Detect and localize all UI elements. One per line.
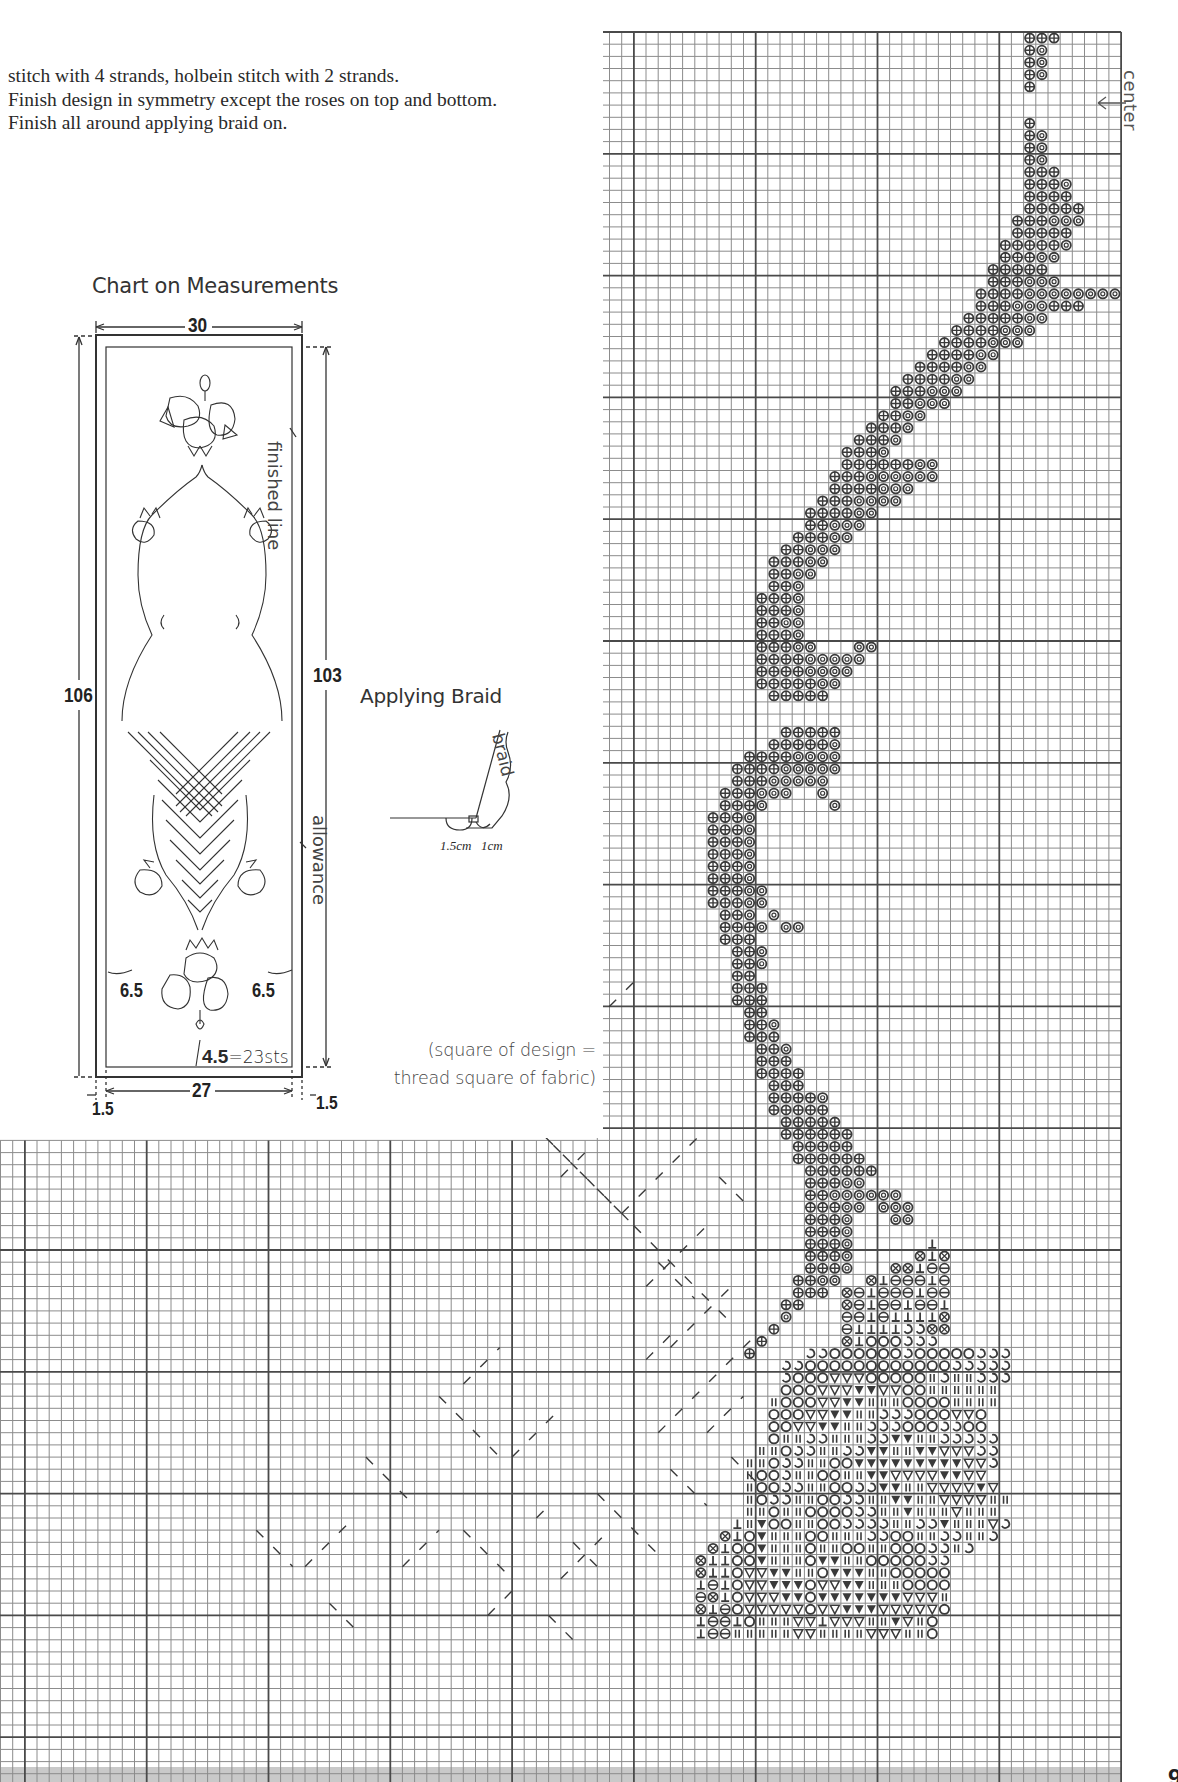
dim-margin-right: 1.5	[316, 1092, 338, 1114]
measurement-chart-title: Chart on Measurements	[92, 274, 338, 298]
instruction-text: stitch with 4 strands, holbein stitch wi…	[8, 64, 546, 135]
measurement-diagram	[0, 300, 350, 1130]
fabric-note: (square of design = thread square of fab…	[356, 1036, 596, 1092]
center-arrow-icon	[1096, 94, 1130, 112]
instruction-line-3: Finish all around applying braid on.	[8, 111, 546, 135]
dim-margin-left: 1.5	[92, 1098, 114, 1120]
dim-height-inner: 103	[313, 663, 342, 687]
label-finished-line: finished line	[264, 441, 285, 550]
page-number: 9	[1168, 1764, 1178, 1782]
instruction-line-1: stitch with 4 strands, holbein stitch wi…	[8, 64, 546, 88]
dim-height-outer: 106	[64, 683, 93, 707]
instruction-line-2: Finish design in symmetry except the ros…	[8, 88, 546, 112]
dim-side-left: 6.5	[120, 979, 143, 1002]
label-allowance: allowance	[309, 815, 330, 905]
fabric-note-line-2: thread square of fabric)	[356, 1064, 596, 1092]
dim-side-right: 6.5	[252, 979, 275, 1002]
dim-bottom-spec-value: 4.5	[202, 1046, 228, 1067]
dim-width-outer: 30	[188, 313, 207, 337]
dim-width-inner: 27	[192, 1078, 211, 1102]
dim-bottom-spec-unit: =23sts	[228, 1047, 288, 1067]
instruction-panel: stitch with 4 strands, holbein stitch wi…	[0, 0, 603, 1138]
fabric-note-line-1: (square of design =	[356, 1036, 596, 1064]
label-braid-a: 1.5cm	[440, 838, 471, 854]
label-braid-b: 1cm	[481, 838, 503, 854]
braid-diagram-title: Applying Braid	[360, 684, 502, 708]
dim-bottom-spec: 4.5=23sts	[202, 1046, 289, 1068]
